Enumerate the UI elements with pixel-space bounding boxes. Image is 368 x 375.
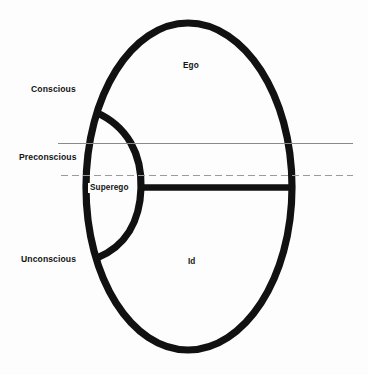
- region-label-preconscious: Preconscious: [19, 152, 78, 163]
- structure-label-id: Id: [188, 258, 195, 266]
- structure-label-ego: Ego: [183, 62, 199, 70]
- diagram-canvas: Conscious Preconscious Unconscious Ego S…: [0, 0, 368, 375]
- structure-label-superego: Superego: [88, 183, 131, 193]
- region-label-unconscious: Unconscious: [21, 255, 76, 264]
- region-label-conscious: Conscious: [31, 85, 76, 94]
- psyche-diagram-graphic: [0, 0, 368, 375]
